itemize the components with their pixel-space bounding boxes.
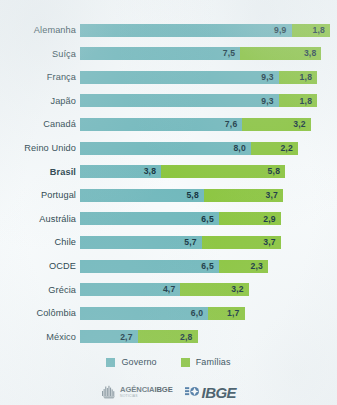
bar-track: 9,31,8 — [80, 94, 337, 107]
bar-value-familias: 2,3 — [250, 262, 268, 271]
bar-value-familias: 2,2 — [280, 144, 298, 153]
bar-value-governo: 5,7 — [184, 238, 202, 247]
bar-segment-familias: 2,2 — [251, 142, 298, 155]
chart-row: OCDE6,52,3 — [0, 258, 337, 274]
chart-row: Austrália6,52,9 — [0, 211, 337, 227]
row-category-label: Suíça — [0, 49, 80, 59]
bar-segment-familias: 5,8 — [161, 165, 285, 178]
agencia-ibge-logo: AGÊNCIAIBGE NOTÍCIAS — [101, 385, 173, 400]
bar-value-familias: 2,8 — [180, 333, 198, 342]
bar-segment-familias: 3,2 — [242, 118, 310, 131]
row-category-label: Portugal — [0, 190, 80, 200]
row-category-label: OCDE — [0, 261, 80, 271]
bar-segment-governo: 6,5 — [80, 212, 219, 225]
bar-value-familias: 3,7 — [265, 191, 283, 200]
row-category-label: Chile — [0, 237, 80, 247]
bar-value-familias: 3,2 — [231, 285, 249, 294]
legend-label-gov: Governo — [121, 357, 156, 367]
bar-segment-governo: 3,8 — [80, 165, 161, 178]
legend-item-gov[interactable]: Governo — [106, 357, 156, 367]
row-category-label: França — [0, 72, 80, 82]
chart-row: Brasil3,85,8 — [0, 164, 337, 180]
row-category-label: Alemanha — [0, 25, 80, 35]
bar-segment-governo: 5,7 — [80, 236, 202, 249]
bar-segment-familias: 3,2 — [180, 283, 248, 296]
bar-value-familias: 3,2 — [293, 120, 311, 129]
agencia-ibge-mark-icon — [101, 385, 117, 400]
bar-track: 7,63,2 — [80, 118, 337, 131]
agencia-ibge-subtitle: NOTÍCIAS — [120, 395, 173, 398]
chart-row: Suíça7,53,8 — [0, 46, 337, 62]
legend-swatch-gov — [106, 358, 115, 367]
bar-segment-familias: 1,8 — [279, 94, 317, 107]
row-category-label: Canadá — [0, 119, 80, 129]
bar-value-familias: 1,8 — [300, 97, 318, 106]
bar-value-governo: 7,5 — [223, 49, 241, 58]
ibge-logo: IBGE — [185, 385, 236, 400]
bar-segment-familias: 3,8 — [240, 47, 321, 60]
chart-row: Portugal5,83,7 — [0, 187, 337, 203]
bar-value-governo: 6,0 — [191, 309, 209, 318]
bar-segment-governo: 6,5 — [80, 260, 219, 273]
bar-value-governo: 9,3 — [261, 97, 279, 106]
bar-segment-familias: 2,8 — [138, 330, 198, 343]
chart-row: México2,72,8 — [0, 329, 337, 345]
bar-value-governo: 2,7 — [120, 333, 138, 342]
chart-row: Canadá7,63,2 — [0, 116, 337, 132]
bar-value-governo: 9,3 — [261, 73, 279, 82]
bar-value-familias: 3,8 — [304, 49, 322, 58]
bar-segment-governo: 2,7 — [80, 330, 138, 343]
legend-label-fam: Famílias — [196, 357, 231, 367]
bar-value-governo: 3,8 — [144, 167, 162, 176]
row-category-label: Reino Unido — [0, 143, 80, 153]
bar-track: 5,83,7 — [80, 189, 337, 202]
chart-row: Alemanha9,91,8 — [0, 22, 337, 38]
bar-value-governo: 6,5 — [201, 215, 219, 224]
bar-track: 3,85,8 — [80, 165, 337, 178]
ibge-wordmark: IBGE — [202, 385, 236, 400]
footer-logos: AGÊNCIAIBGE NOTÍCIAS IBGE — [0, 379, 337, 405]
ibge-mark-icon — [185, 386, 200, 399]
bar-track: 6,52,9 — [80, 212, 337, 225]
bar-segment-familias: 3,7 — [202, 236, 281, 249]
bar-value-familias: 1,8 — [300, 73, 318, 82]
bar-track: 8,02,2 — [80, 142, 337, 155]
bar-value-governo: 6,5 — [201, 262, 219, 271]
bar-value-familias: 1,8 — [312, 26, 330, 35]
row-category-label: México — [0, 332, 80, 342]
bar-segment-governo: 8,0 — [80, 142, 251, 155]
bar-segment-governo: 5,8 — [80, 189, 204, 202]
bar-segment-governo: 9,3 — [80, 71, 279, 84]
legend-item-fam[interactable]: Famílias — [181, 357, 231, 367]
bar-segment-familias: 2,3 — [219, 260, 268, 273]
row-category-label: Austrália — [0, 214, 80, 224]
chart-row: Colômbia6,01,7 — [0, 305, 337, 321]
chart-row: Reino Unido8,02,2 — [0, 140, 337, 156]
bar-value-familias: 1,7 — [227, 309, 245, 318]
bar-value-familias: 5,8 — [268, 167, 286, 176]
bar-track: 7,53,8 — [80, 47, 337, 60]
chart-row: Japão9,31,8 — [0, 93, 337, 109]
bar-segment-governo: 9,9 — [80, 24, 292, 37]
bar-track: 4,73,2 — [80, 283, 337, 296]
bar-value-familias: 3,7 — [263, 238, 281, 247]
bar-value-governo: 8,0 — [233, 144, 251, 153]
bar-track: 6,01,7 — [80, 307, 337, 320]
agencia-ibge-wordmark: AGÊNCIAIBGE — [120, 386, 173, 394]
stacked-bar-chart: Alemanha9,91,8Suíça7,53,8França9,31,8Jap… — [0, 0, 337, 352]
row-category-label: Brasil — [0, 167, 80, 177]
chart-legend: GovernoFamílias — [0, 357, 337, 367]
row-category-label: Colômbia — [0, 308, 80, 318]
row-category-label: Japão — [0, 96, 80, 106]
bar-track: 6,52,3 — [80, 260, 337, 273]
bar-track: 2,72,8 — [80, 330, 337, 343]
chart-row: Grécia4,73,2 — [0, 282, 337, 298]
legend-swatch-fam — [181, 358, 190, 367]
bar-segment-familias: 2,9 — [219, 212, 281, 225]
bar-segment-governo: 6,0 — [80, 307, 208, 320]
bar-value-familias: 2,9 — [263, 215, 281, 224]
bar-value-governo: 4,7 — [163, 285, 181, 294]
bar-segment-familias: 1,7 — [208, 307, 244, 320]
bar-track: 9,91,8 — [80, 24, 337, 37]
bar-track: 9,31,8 — [80, 71, 337, 84]
